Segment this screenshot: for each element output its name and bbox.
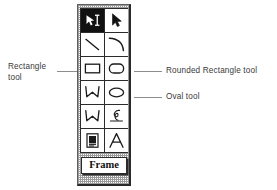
palette-chrome: Frame: [78, 5, 129, 184]
tool-button-oval[interactable]: [105, 81, 128, 104]
frame-button[interactable]: Frame: [81, 157, 127, 174]
tool-button-page-object[interactable]: [81, 129, 104, 152]
arc-icon: [107, 35, 126, 54]
frame-button-label: Frame: [89, 160, 119, 171]
tool-button-arrow-select[interactable]: [105, 9, 128, 32]
leader-line-rounded-rectangle-tool: [134, 71, 162, 72]
scribble-icon: [107, 107, 126, 126]
screenshot-canvas: Rectangle tool Rounded Rectangle tool Ov…: [0, 0, 277, 190]
tool-button-arc[interactable]: [105, 33, 128, 56]
tool-button-text[interactable]: [105, 129, 128, 152]
tool-button-selection-pointer[interactable]: [81, 9, 104, 32]
leader-line-rectangle-tool: [57, 71, 77, 72]
tool-button-rounded-rectangle[interactable]: [105, 57, 128, 80]
polygon-icon: [83, 83, 102, 102]
callout-label-rounded-rectangle-tool: Rounded Rectangle tool: [166, 66, 276, 77]
document-page-icon: [83, 131, 102, 150]
tool-button-polygon[interactable]: [81, 81, 104, 104]
drawing-tools-palette: Frame: [77, 4, 131, 186]
callout-label-oval-tool: Oval tool: [166, 92, 266, 103]
letter-a-icon: [107, 131, 126, 150]
tool-button-line[interactable]: [81, 33, 104, 56]
oval-icon: [107, 83, 126, 102]
pointer-ibeam-icon: [83, 11, 102, 30]
rectangle-icon: [83, 59, 102, 78]
arrow-cursor-icon: [107, 11, 126, 30]
tool-button-freeform-polygon[interactable]: [81, 105, 104, 128]
rounded-rectangle-icon: [107, 59, 126, 78]
leader-line-oval-tool: [134, 97, 162, 98]
tool-grid: [80, 8, 128, 153]
line-icon: [83, 35, 102, 54]
tool-button-freehand[interactable]: [105, 105, 128, 128]
tool-button-rectangle[interactable]: [81, 57, 104, 80]
callout-label-rectangle-tool: Rectangle tool: [8, 62, 70, 83]
freeform-polygon-icon: [83, 107, 102, 126]
